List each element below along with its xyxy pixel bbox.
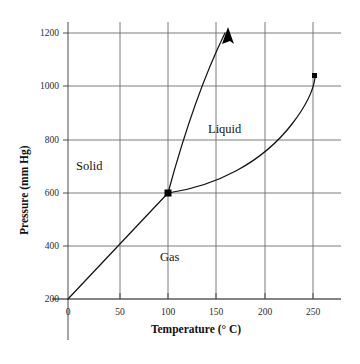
x-tick-label-50: 50 [115, 307, 125, 317]
vaporization-curve [168, 78, 315, 193]
y-tick-label-1000: 1000 [40, 81, 59, 91]
y-tick-marks [63, 33, 68, 246]
y-tick-label-200: 200 [45, 294, 60, 304]
x-axis-title: Temperature (° C) [151, 323, 241, 336]
solid-region-label: Solid [76, 159, 103, 173]
y-tick-label-400: 400 [45, 241, 60, 251]
y-tick-labels: 1200 1000 800 600 400 200 [40, 28, 59, 304]
x-tick-label-100: 100 [161, 307, 176, 317]
x-tick-label-0: 0 [66, 307, 71, 317]
x-tick-label-150: 150 [209, 307, 224, 317]
gas-region-label: Gas [160, 250, 180, 264]
x-tick-label-250: 250 [306, 307, 321, 317]
y-tick-label-600: 600 [45, 188, 60, 198]
triple-point-marker [165, 190, 172, 197]
vertical-gridlines [120, 22, 313, 299]
liquid-region-label: Liquid [208, 122, 242, 136]
y-axis-title: Pressure (mm Hg) [18, 145, 31, 235]
x-tick-marks [120, 293, 313, 299]
y-tick-label-800: 800 [45, 135, 60, 145]
y-tick-label-1200: 1200 [40, 28, 59, 38]
phase-diagram-chart: 1200 1000 800 600 400 200 0 50 100 150 2… [0, 0, 360, 364]
critical-point-marker [312, 73, 317, 78]
x-tick-labels: 0 50 100 150 200 250 [66, 307, 321, 317]
x-tick-label-200: 200 [258, 307, 273, 317]
chart-canvas: 1200 1000 800 600 400 200 0 50 100 150 2… [0, 0, 360, 364]
